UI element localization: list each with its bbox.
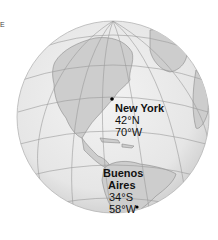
city-name: New York (115, 102, 164, 114)
latitude: 34°S (103, 191, 143, 203)
new-york-marker (110, 97, 114, 101)
latitude: 42°N (115, 114, 164, 126)
new-york-label: New York 42°N 70°W (115, 102, 164, 138)
city-name-line1: Buenos (103, 167, 143, 179)
corner-mark: E (0, 21, 5, 28)
city-name-line2: Aires (108, 179, 136, 191)
longitude: 70°W (115, 126, 164, 138)
longitude: 58°W (103, 203, 143, 215)
buenos-aires-label: Buenos Aires 34°S 58°W (103, 167, 143, 215)
